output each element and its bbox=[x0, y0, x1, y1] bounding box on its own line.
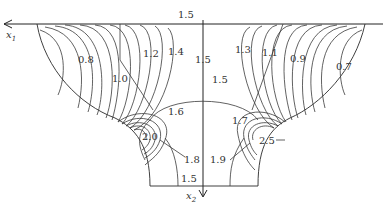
x2-axis-label: x2 bbox=[186, 190, 197, 204]
label-1-3: 1.3 bbox=[235, 44, 251, 55]
x1-axis-label: x1 bbox=[6, 29, 16, 43]
label-bottom-1-5: 1.5 bbox=[181, 173, 197, 184]
x2-axis bbox=[199, 20, 207, 197]
label-top-1-5: 1.5 bbox=[178, 9, 194, 20]
label-1-9: 1.9 bbox=[210, 154, 226, 165]
label-arc-1-5: 1.5 bbox=[212, 74, 228, 85]
contour-diagram: 1.5 0.8 1.0 1.2 1.4 1.5 1.5 1.6 2.0 1.8 … bbox=[0, 0, 391, 214]
label-1-4: 1.4 bbox=[168, 46, 184, 57]
label-1-1: 1.1 bbox=[262, 47, 278, 58]
leader-1-8 bbox=[160, 140, 185, 157]
label-1-2: 1.2 bbox=[143, 48, 159, 59]
left-boundary bbox=[37, 24, 150, 186]
leader-1-9 bbox=[230, 143, 250, 160]
label-center-1-5: 1.5 bbox=[195, 54, 211, 65]
label-1-0: 1.0 bbox=[112, 73, 128, 84]
label-0-7: 0.7 bbox=[336, 61, 352, 72]
label-1-8: 1.8 bbox=[184, 154, 200, 165]
label-2-5: 2.5 bbox=[259, 135, 275, 146]
label-2-0: 2.0 bbox=[142, 131, 158, 142]
label-0-8: 0.8 bbox=[78, 54, 94, 65]
label-1-7: 1.7 bbox=[232, 115, 248, 126]
label-1-6: 1.6 bbox=[168, 106, 184, 117]
label-0-9: 0.9 bbox=[290, 53, 306, 64]
